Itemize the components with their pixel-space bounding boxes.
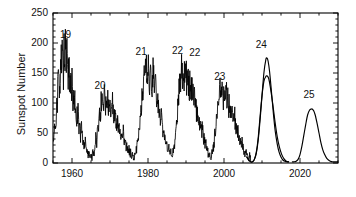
x-tick-label: 2000 — [204, 168, 244, 179]
y-tick-label: 150 — [18, 67, 48, 78]
series-predicted-cycle25 — [292, 109, 338, 162]
cycle-number-label: 24 — [251, 39, 271, 50]
x-tick-label: 2020 — [280, 168, 320, 179]
y-tick-label: 200 — [18, 37, 48, 48]
y-tick-label: 100 — [18, 97, 48, 108]
sunspot-number-chart: Sunspot Number 0501001502002501960198020… — [0, 0, 356, 197]
cycle-number-label: 22 — [185, 47, 205, 58]
x-tick-label: 1960 — [52, 168, 92, 179]
x-tick-label: 1980 — [128, 168, 168, 179]
y-tick-label: 0 — [18, 157, 48, 168]
cycle-number-label: 20 — [90, 80, 110, 91]
y-tick-label: 50 — [18, 127, 48, 138]
cycle-number-label: 21 — [131, 46, 151, 57]
cycle-number-label: 23 — [210, 71, 230, 82]
series-predicted-cycle24-high — [247, 58, 289, 162]
y-tick-label: 250 — [18, 7, 48, 18]
series-observed-monthly-sunspot-number — [53, 29, 251, 161]
cycle-number-label: 19 — [56, 29, 76, 40]
series-predicted-cycle24-low — [247, 76, 289, 162]
cycle-number-label: 25 — [299, 89, 319, 100]
